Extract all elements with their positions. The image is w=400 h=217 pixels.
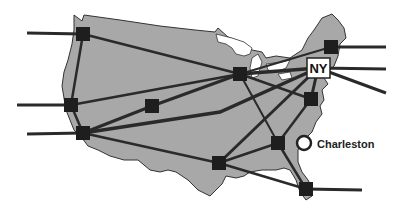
node-northeast — [324, 40, 338, 54]
us-map-landmass — [62, 14, 346, 200]
us-network-map: NY Charleston — [0, 0, 400, 217]
ny-node: NY — [307, 58, 330, 78]
node-southwest — [76, 126, 90, 140]
node-midatlantic — [304, 92, 318, 106]
node-midwest — [233, 67, 247, 81]
charleston-marker: Charleston — [297, 136, 375, 150]
charleston-label: Charleston — [317, 138, 375, 150]
node-florida — [299, 182, 313, 196]
node-mountain — [145, 99, 159, 113]
node-southeast — [271, 136, 285, 150]
node-northwest — [76, 27, 90, 41]
node-west — [64, 98, 78, 112]
node-south — [212, 156, 226, 170]
charleston-circle-icon — [297, 136, 311, 150]
ny-label: NY — [309, 61, 327, 76]
